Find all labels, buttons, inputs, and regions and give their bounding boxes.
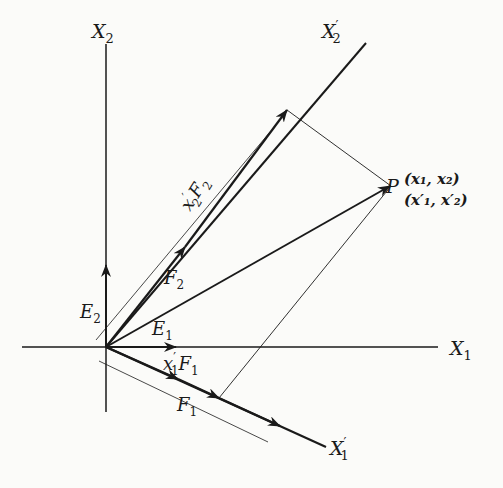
x1f1-vector-2 bbox=[219, 398, 280, 426]
x1-prime-axis-label: X′1 bbox=[328, 435, 349, 463]
x2f2-label: x′2F2 bbox=[174, 172, 216, 217]
f2-label: F2 bbox=[163, 267, 184, 292]
x2f2-vector bbox=[185, 110, 287, 247]
dimension-line-x2f2 bbox=[96, 132, 270, 340]
point-p-coords: (x₁, x₂) bbox=[404, 170, 460, 188]
e1-label: E1 bbox=[151, 318, 173, 343]
diagram-canvas: X2 X′2 X1 X′1 E2 E1 F2 F1 x′1F1 x′2F2 P … bbox=[0, 0, 503, 488]
x1-axis-label: X1 bbox=[448, 337, 472, 363]
x2-axis-label: X2 bbox=[90, 20, 114, 46]
point-p-coords-prime: (x′₁, x′₂) bbox=[404, 191, 468, 209]
projection-line-x1prime bbox=[219, 186, 391, 398]
e2-label: E2 bbox=[79, 301, 101, 326]
f2-vector bbox=[106, 247, 185, 347]
point-p-label: P bbox=[385, 175, 400, 197]
projection-line-x2prime bbox=[287, 110, 391, 186]
x2-prime-axis-label: X′2 bbox=[320, 18, 341, 46]
x2-prime-axis bbox=[106, 43, 366, 347]
op-vector bbox=[106, 186, 390, 347]
f1-label: F1 bbox=[176, 394, 197, 419]
x1f1-label: x′1F1 bbox=[163, 351, 199, 378]
